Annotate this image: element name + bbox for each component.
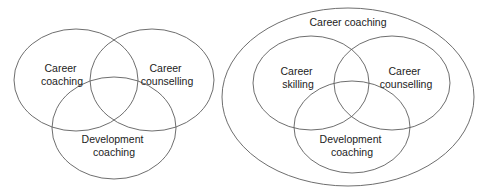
right-label-career-counselling-line1: Career (388, 65, 421, 77)
right-label-development-coaching-line2: coaching (331, 146, 373, 158)
right-label-career-counselling-line2: counselling (380, 78, 433, 90)
left-diagram: Career coaching Career counselling Devel… (14, 29, 214, 179)
right-label-career-counselling: Career counselling (380, 65, 433, 90)
right-label-career-coaching-outer: Career coaching (309, 16, 386, 28)
left-label-career-counselling: Career counselling (141, 62, 194, 87)
left-label-career-coaching-line1: Career (44, 62, 77, 74)
left-label-development-coaching-line1: Development (82, 133, 144, 145)
right-label-career-skilling: Career skilling (280, 65, 315, 90)
left-label-career-coaching-line2: coaching (41, 75, 83, 87)
right-outer-ellipse-career-coaching (222, 8, 474, 186)
right-diagram: Career coaching Career skilling Career c… (222, 8, 474, 186)
left-label-career-counselling-line2: counselling (141, 75, 194, 87)
left-label-development-coaching-line2: coaching (93, 146, 135, 158)
venn-diagram-figure: Career coaching Career counselling Devel… (0, 0, 483, 195)
right-label-career-coaching-outer-line1: Career coaching (309, 16, 386, 28)
left-label-development-coaching: Development coaching (82, 133, 147, 158)
left-label-career-counselling-line1: Career (149, 62, 182, 74)
right-label-development-coaching-line1: Development (320, 133, 382, 145)
left-circle-development-coaching (52, 77, 176, 179)
right-label-career-skilling-line2: skilling (282, 78, 314, 90)
left-label-career-coaching: Career coaching (41, 62, 83, 87)
right-label-development-coaching: Development coaching (320, 133, 385, 158)
right-circle-development-coaching (294, 81, 410, 173)
venn-diagram-svg: Career coaching Career counselling Devel… (0, 0, 483, 195)
right-label-career-skilling-line1: Career (280, 65, 313, 77)
